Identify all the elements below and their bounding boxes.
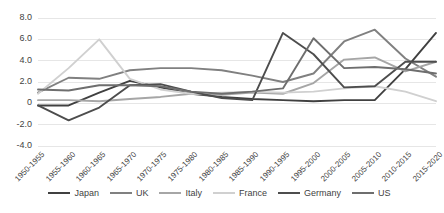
y-tick-label: 8.0 bbox=[19, 12, 32, 22]
legend-swatch-japan bbox=[48, 192, 70, 194]
y-tick-label: 2.0 bbox=[19, 76, 32, 86]
legend-label-uk: UK bbox=[136, 188, 149, 198]
legend-swatch-uk bbox=[110, 192, 132, 194]
legend-label-france: France bbox=[239, 188, 267, 198]
series-line-germany bbox=[38, 33, 436, 120]
gridlines bbox=[38, 18, 436, 146]
y-tick-label: 6.0 bbox=[19, 33, 32, 43]
series-lines bbox=[38, 30, 436, 121]
legend-label-germany: Germany bbox=[304, 188, 341, 198]
legend-item-france[interactable]: France bbox=[213, 188, 267, 198]
legend-item-italy[interactable]: Italy bbox=[159, 188, 202, 198]
legend-swatch-us bbox=[352, 192, 374, 194]
legend-item-germany[interactable]: Germany bbox=[278, 188, 341, 198]
legend-swatch-italy bbox=[159, 192, 181, 194]
legend-item-japan[interactable]: Japan bbox=[48, 188, 99, 198]
y-tick-label: 4.0 bbox=[19, 55, 32, 65]
legend-item-us[interactable]: US bbox=[352, 188, 391, 198]
legend-label-italy: Italy bbox=[185, 188, 202, 198]
legend-item-uk[interactable]: UK bbox=[110, 188, 149, 198]
y-tick-label: -4.0 bbox=[16, 140, 32, 150]
legend-swatch-france bbox=[213, 192, 235, 194]
legend-label-us: US bbox=[378, 188, 391, 198]
legend-swatch-germany bbox=[278, 192, 300, 194]
y-tick-label: 0 bbox=[27, 97, 32, 107]
y-tick-label: -2.0 bbox=[16, 119, 32, 129]
legend-label-japan: Japan bbox=[74, 188, 99, 198]
chart-legend: JapanUKItalyFranceGermanyUS bbox=[0, 188, 439, 198]
